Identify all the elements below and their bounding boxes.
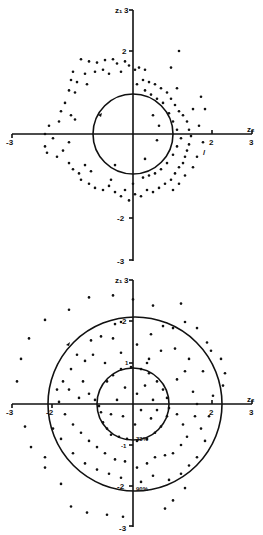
bottom-y-label-neg1: -1 [121,443,127,449]
data-point [168,407,171,410]
data-point [170,66,173,69]
data-point [172,189,175,192]
data-point [224,372,227,375]
data-point [152,191,155,194]
data-point [56,156,59,159]
data-point [188,129,191,132]
data-point [68,308,71,311]
data-point [48,124,51,127]
data-point [140,195,143,198]
data-point [172,452,175,455]
data-point [134,193,137,196]
data-point [182,423,185,426]
data-point [174,172,177,175]
data-point [160,168,163,171]
data-point [94,187,97,190]
data-point [148,358,151,361]
data-point [112,337,115,340]
data-point [120,352,123,355]
data-point [172,499,175,502]
data-point [188,358,191,361]
data-point [84,360,87,363]
data-point [68,89,71,92]
data-point [156,409,159,412]
data-point [184,370,187,373]
data-point [112,58,115,61]
data-point [106,513,109,516]
data-point [44,319,47,322]
data-point [158,124,161,127]
data-point [184,321,187,324]
data-point [124,60,127,63]
data-point [162,388,165,391]
data-point [84,164,87,167]
data-point [110,413,113,416]
data-point [130,366,133,369]
data-point [180,137,183,140]
data-point [184,487,187,490]
data-point [142,79,145,82]
data-point [86,83,89,86]
data-point [156,139,159,142]
data-point [204,440,207,443]
data-point [150,333,153,336]
data-point [170,178,173,181]
data-point [76,81,79,84]
data-point [168,112,171,115]
data-point [192,390,195,393]
data-point [76,354,79,357]
data-point [64,413,67,416]
bottom-x-label-3: 3 [249,408,254,417]
data-point [84,462,87,465]
data-point [178,50,181,53]
bottom-y-label-3: 3 [124,276,129,285]
data-point [144,158,147,161]
data-point [56,388,59,391]
data-point [114,191,117,194]
data-point [144,68,147,71]
data-point [172,120,175,123]
data-point [180,444,183,447]
data-point [150,93,153,96]
data-point [62,149,65,152]
data-point [162,325,165,328]
data-point [154,83,157,86]
bottom-x-label-neg3: -3 [6,408,14,417]
bottom-x-label-neg2: -2 [46,408,54,417]
data-point [72,452,75,455]
data-point [174,347,177,350]
data-point [206,341,209,344]
data-point [136,83,139,86]
data-point [72,168,75,171]
data-point [92,354,95,357]
data-point [140,368,143,371]
top-y-axis-title: z₁ [115,6,123,15]
data-point [110,178,113,181]
data-point [188,143,191,146]
data-point [96,61,99,64]
data-point [60,483,63,486]
data-point [108,185,111,188]
data-point [150,417,153,420]
data-point [178,183,181,186]
data-point [72,71,75,74]
data-point [164,183,167,186]
data-point [62,380,65,383]
data-point [44,133,47,136]
data-point [100,335,103,338]
top-x-label-neg3: -3 [6,138,14,147]
data-point [108,472,111,475]
data-point [140,409,143,412]
data-point [152,304,155,307]
data-point [202,370,205,373]
data-point [200,95,203,98]
data-point [128,199,131,202]
data-point [154,456,157,459]
data-point [136,440,139,443]
data-point [176,378,179,381]
data-point [84,73,87,76]
data-point [116,62,119,65]
data-point [178,166,181,169]
outer-circle-label: 90% [136,486,149,492]
data-point [80,178,83,181]
